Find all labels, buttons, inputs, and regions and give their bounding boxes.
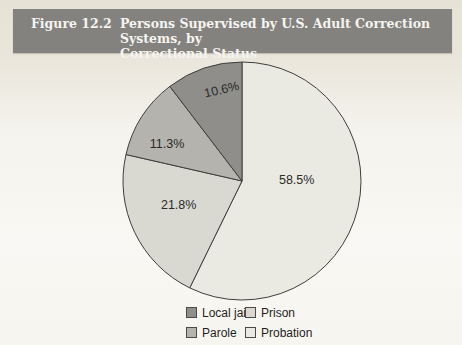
legend-item-local-jail: Local jail — [186, 305, 245, 320]
legend-item-prison: Prison — [245, 305, 312, 320]
legend-swatch-local-jail — [186, 307, 197, 318]
slice-label-parole: 11.3% — [150, 137, 185, 151]
legend-item-probation: Probation — [245, 325, 312, 340]
legend-item-parole: Parole — [186, 325, 245, 340]
legend-swatch-probation — [245, 327, 256, 338]
slice-label-prison: 21.8% — [161, 198, 196, 212]
scanned-page: { "figure": { "label": "Figure 12.2", "t… — [0, 0, 462, 345]
legend-swatch-parole — [186, 327, 197, 338]
legend-label-parole: Parole — [202, 326, 237, 340]
pie-chart: 58.5%21.8%11.3%10.6% — [0, 0, 462, 345]
chart-legend: Local jailPrisonParoleProbation — [186, 305, 312, 340]
slice-label-probation: 58.5% — [279, 173, 314, 187]
legend-swatch-prison — [245, 307, 256, 318]
legend-label-probation: Probation — [261, 326, 312, 340]
legend-label-prison: Prison — [261, 306, 295, 320]
legend-label-local-jail: Local jail — [202, 306, 249, 320]
